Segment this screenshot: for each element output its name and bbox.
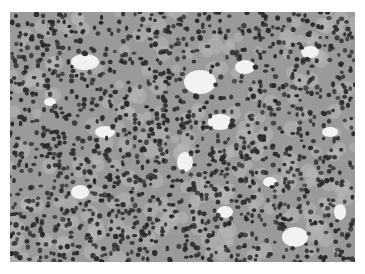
cell-nucleus xyxy=(69,231,74,235)
cell-nucleus xyxy=(183,27,188,31)
cell-nucleus xyxy=(112,69,116,74)
cell-nucleus xyxy=(99,259,102,262)
lumen-space xyxy=(71,185,89,199)
lumen-space xyxy=(282,227,308,247)
cell-nucleus xyxy=(78,13,82,16)
cell-nucleus xyxy=(301,112,304,116)
cell-nucleus xyxy=(192,225,197,229)
cell-nucleus xyxy=(76,136,81,141)
cell-nucleus xyxy=(187,110,191,114)
cell-nucleus xyxy=(146,121,151,126)
cell-nucleus xyxy=(149,183,152,187)
cell-nucleus xyxy=(139,238,142,241)
cell-nucleus xyxy=(82,169,86,175)
cell-nucleus xyxy=(340,232,344,237)
cell-nucleus xyxy=(105,176,109,179)
cell-nucleus xyxy=(282,255,285,259)
cell-nucleus xyxy=(125,139,129,145)
cell-nucleus xyxy=(132,226,136,230)
cell-nucleus xyxy=(36,197,41,201)
cell-nucleus xyxy=(121,155,125,158)
cell-nucleus xyxy=(168,31,172,35)
cell-nucleus xyxy=(28,231,32,237)
cell-nucleus xyxy=(19,121,23,126)
cell-nucleus xyxy=(153,19,157,23)
cell-nucleus xyxy=(225,55,229,60)
cell-nucleus xyxy=(199,108,202,112)
cell-nucleus xyxy=(23,141,27,145)
cell-nucleus xyxy=(269,185,275,189)
cell-nucleus xyxy=(131,187,134,190)
cell-nucleus xyxy=(314,159,319,165)
cell-nucleus xyxy=(229,94,233,99)
cell-nucleus xyxy=(47,146,52,151)
cell-nucleus xyxy=(60,111,65,114)
cell-nucleus xyxy=(133,174,138,179)
cell-nucleus xyxy=(206,239,209,243)
cell-nucleus xyxy=(56,174,61,178)
cell-nucleus xyxy=(322,137,325,141)
cell-nucleus xyxy=(294,63,299,68)
cell-nucleus xyxy=(60,46,65,50)
cell-nucleus xyxy=(291,42,295,47)
cell-nucleus xyxy=(150,239,154,243)
cell-nucleus xyxy=(43,144,47,148)
cell-nucleus xyxy=(166,118,169,123)
cell-nucleus xyxy=(293,69,297,73)
cell-nucleus xyxy=(346,243,351,247)
cell-nucleus xyxy=(47,152,52,156)
cell-nucleus xyxy=(171,166,176,171)
cell-nucleus xyxy=(230,50,235,55)
cell-nucleus xyxy=(295,168,300,172)
cell-nucleus xyxy=(185,239,189,243)
cell-nucleus xyxy=(205,125,210,129)
cell-nucleus xyxy=(153,70,159,74)
cell-nucleus xyxy=(246,123,251,127)
cell-nucleus xyxy=(264,238,269,243)
cell-nucleus xyxy=(57,12,62,17)
cell-nucleus xyxy=(329,148,333,152)
cell-nucleus xyxy=(50,108,55,113)
cell-nucleus xyxy=(170,203,176,207)
cell-nucleus xyxy=(220,155,225,160)
cell-nucleus xyxy=(103,253,108,256)
cell-nucleus xyxy=(151,226,155,230)
cell-nucleus xyxy=(69,235,74,239)
cell-nucleus xyxy=(100,117,104,122)
cell-nucleus xyxy=(315,92,319,95)
cell-nucleus xyxy=(133,180,137,185)
cell-nucleus xyxy=(117,115,122,121)
cytoplasm-patch xyxy=(32,109,42,119)
cell-nucleus xyxy=(42,73,46,78)
cell-nucleus xyxy=(124,171,129,176)
cell-nucleus xyxy=(345,27,350,32)
cell-nucleus xyxy=(184,234,189,238)
cell-nucleus xyxy=(196,172,201,177)
cell-nucleus xyxy=(291,27,296,32)
cell-nucleus xyxy=(251,195,256,200)
cell-nucleus xyxy=(261,21,264,25)
cell-nucleus xyxy=(216,133,220,138)
cell-nucleus xyxy=(262,134,266,140)
cell-nucleus xyxy=(194,120,198,125)
cell-nucleus xyxy=(70,180,75,184)
cell-nucleus xyxy=(252,245,256,248)
cell-nucleus xyxy=(174,78,177,82)
cell-nucleus xyxy=(207,163,212,167)
cell-nucleus xyxy=(192,187,197,192)
cell-nucleus xyxy=(272,203,276,207)
cell-nucleus xyxy=(327,198,331,202)
cell-nucleus xyxy=(319,95,323,99)
cell-nucleus xyxy=(61,131,66,135)
cell-nucleus xyxy=(251,172,254,177)
cell-nucleus xyxy=(115,117,118,122)
cell-nucleus xyxy=(133,126,138,131)
cell-nucleus xyxy=(214,225,219,229)
cell-nucleus xyxy=(44,255,49,259)
cell-nucleus xyxy=(259,83,263,88)
cell-nucleus xyxy=(215,62,220,66)
cell-nucleus xyxy=(224,186,229,189)
cell-nucleus xyxy=(53,163,58,168)
cell-nucleus xyxy=(325,36,328,39)
cell-nucleus xyxy=(79,224,84,228)
